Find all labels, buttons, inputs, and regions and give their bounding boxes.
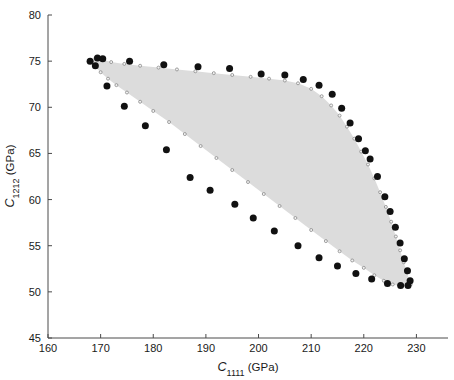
upper-boundary-samples-marker-17 — [374, 173, 381, 180]
boundary-open-circle-35 — [391, 283, 394, 286]
upper-boundary-samples-marker-5 — [195, 63, 202, 70]
upper-boundary-samples-marker-25 — [405, 282, 412, 289]
lower-boundary-samples-marker-3 — [142, 122, 149, 129]
boundary-open-circle-41 — [324, 240, 327, 243]
upper-boundary-samples-marker-8 — [281, 71, 288, 78]
upper-boundary-samples-marker-11 — [329, 91, 336, 98]
upper-boundary-samples-marker-13 — [347, 119, 354, 126]
x-tick-label-220: 220 — [355, 342, 373, 354]
boundary-open-circle-12 — [268, 77, 271, 80]
boundary-open-circle-22 — [367, 163, 370, 166]
boundary-open-circle-28 — [399, 249, 402, 252]
upper-boundary-samples-marker-9 — [300, 76, 307, 83]
lower-boundary-samples-marker-10 — [295, 242, 302, 249]
lower-boundary-samples-marker-14 — [368, 275, 375, 282]
boundary-open-circle-4 — [123, 62, 126, 65]
boundary-open-circle-5 — [139, 64, 142, 67]
boundary-open-circle-52 — [152, 109, 155, 112]
upper-boundary-samples-marker-3 — [126, 58, 133, 65]
upper-boundary-samples-marker-22 — [401, 255, 408, 262]
y-tick-label-60: 60 — [29, 194, 41, 206]
boundary-open-circle-24 — [379, 191, 382, 194]
lower-boundary-samples-marker-6 — [207, 187, 214, 194]
boundary-open-circle-39 — [351, 259, 354, 262]
lower-boundary-samples-marker-9 — [271, 227, 278, 234]
boundary-open-circle-8 — [194, 70, 197, 73]
lower-boundary-samples-marker-4 — [163, 146, 170, 153]
x-axis-title: C1111 (GPa) — [218, 360, 279, 378]
lower-boundary-samples-marker-7 — [231, 201, 238, 208]
y-axis-title: C1212 (GPa) — [3, 144, 21, 207]
lower-boundary-samples-marker-15 — [384, 280, 391, 287]
upper-boundary-samples-marker-21 — [397, 239, 404, 246]
y-tick-label-70: 70 — [29, 101, 41, 113]
y-tick-label-45: 45 — [29, 332, 41, 344]
upper-boundary-samples-marker-20 — [392, 224, 399, 231]
upper-boundary-samples-marker-6 — [226, 65, 233, 72]
x-tick-label-190: 190 — [197, 342, 215, 354]
upper-boundary-samples-marker-23 — [404, 267, 411, 274]
boundary-open-circle-47 — [231, 169, 234, 172]
boundary-open-circle-49 — [199, 145, 202, 148]
lower-boundary-samples-marker-5 — [187, 174, 194, 181]
boundary-open-circle-54 — [125, 91, 128, 94]
x-tick-label-170: 170 — [91, 342, 109, 354]
boundary-open-circle-50 — [183, 133, 186, 136]
boundary-open-circle-3 — [110, 61, 113, 64]
boundary-open-circle-51 — [168, 121, 171, 124]
boundary-open-circle-57 — [99, 71, 102, 74]
lower-boundary-samples-marker-12 — [334, 263, 341, 270]
y-tick-label-75: 75 — [29, 55, 41, 67]
x-tick-label-180: 180 — [144, 342, 162, 354]
boundary-open-circle-45 — [262, 193, 265, 196]
boundary-open-circle-18 — [338, 114, 341, 117]
upper-boundary-samples-marker-12 — [338, 105, 345, 112]
x-tick-label-160: 160 — [39, 342, 57, 354]
plot-canvas: 160170180190200210220230 455055606570758… — [0, 0, 454, 380]
boundary-open-circle-6 — [157, 66, 160, 69]
boundary-open-circle-46 — [247, 181, 250, 184]
boundary-open-circle-44 — [278, 205, 281, 208]
boundary-open-circle-11 — [249, 75, 252, 78]
lower-boundary-samples-marker-1 — [103, 83, 110, 90]
upper-boundary-samples-marker-10 — [316, 82, 323, 89]
y-axis-tick-labels: 4550556065707580 — [29, 9, 41, 344]
upper-boundary-samples-marker-18 — [381, 193, 388, 200]
boundary-open-circle-16 — [320, 95, 323, 98]
upper-boundary-samples-marker-15 — [362, 147, 369, 154]
y-tick-label-55: 55 — [29, 240, 41, 252]
lower-boundary-samples-marker-16 — [397, 282, 404, 289]
boundary-open-circle-13 — [283, 79, 286, 82]
upper-boundary-samples-marker-16 — [367, 155, 374, 162]
x-axis-tick-labels: 160170180190200210220230 — [39, 342, 426, 354]
shaded-region-layer — [90, 58, 411, 286]
boundary-open-circle-10 — [231, 73, 234, 76]
boundary-open-circle-53 — [139, 100, 142, 103]
lower-boundary-samples-marker-2 — [121, 103, 128, 110]
lower-boundary-samples-marker-0 — [92, 62, 99, 69]
x-tick-label-230: 230 — [407, 342, 425, 354]
upper-boundary-samples-marker-2 — [99, 55, 106, 62]
boundary-open-circle-26 — [390, 220, 393, 223]
lower-boundary-samples-marker-13 — [352, 270, 359, 277]
elastic-constants-scatter-figure: 160170180190200210220230 455055606570758… — [0, 0, 454, 380]
boundary-open-circle-9 — [212, 72, 215, 75]
boundary-open-circle-43 — [294, 217, 297, 220]
upper-boundary-samples-marker-4 — [160, 61, 167, 68]
boundary-open-circle-15 — [310, 87, 313, 90]
boundary-open-circle-7 — [175, 68, 178, 71]
x-tick-label-210: 210 — [302, 342, 320, 354]
boundary-open-circle-48 — [215, 157, 218, 160]
upper-boundary-samples-marker-19 — [387, 208, 394, 215]
boundary-open-circle-17 — [330, 104, 333, 107]
y-tick-label-80: 80 — [29, 9, 41, 21]
upper-boundary-samples-marker-0 — [87, 58, 94, 65]
y-tick-label-65: 65 — [29, 147, 41, 159]
lower-boundary-samples-marker-11 — [316, 254, 323, 261]
boundary-open-circle-14 — [297, 82, 300, 85]
upper-boundary-samples-marker-7 — [258, 71, 265, 78]
boundary-open-circle-55 — [115, 84, 118, 87]
x-tick-label-200: 200 — [249, 342, 267, 354]
boundary-open-circle-40 — [338, 250, 341, 253]
upper-boundary-samples-marker-14 — [355, 135, 362, 142]
